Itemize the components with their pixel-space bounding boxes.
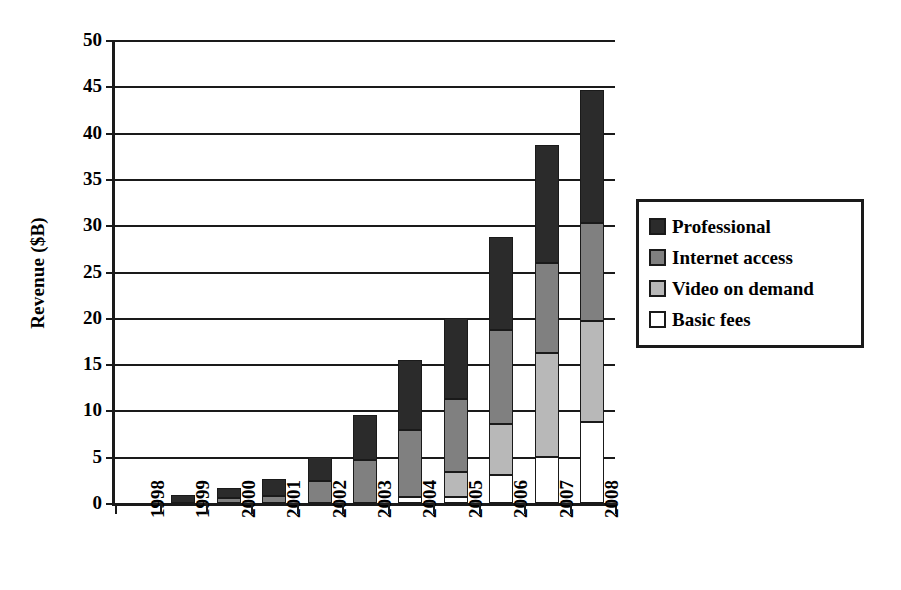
- bar-segment-professional: [308, 457, 332, 481]
- legend-item-video-on-demand[interactable]: Video on demand: [649, 273, 851, 304]
- legend-swatch-icon: [649, 280, 666, 297]
- y-tick-mark: [106, 179, 115, 181]
- legend-swatch-icon: [649, 218, 666, 235]
- legend: ProfessionalInternet accessVideo on dema…: [636, 199, 864, 348]
- bar-segment-video-on-demand: [580, 321, 604, 423]
- x-tick-mark: [524, 503, 526, 514]
- y-tick-label: 0: [93, 492, 103, 514]
- x-tick-label: 1998: [147, 480, 169, 518]
- x-tick-mark: [388, 503, 390, 514]
- y-tick-mark: [106, 225, 115, 227]
- y-tick-mark: [106, 364, 115, 366]
- legend-swatch-icon: [649, 311, 666, 328]
- x-tick-label: 2006: [510, 480, 532, 518]
- y-tick-label: 45: [83, 75, 102, 97]
- y-tick-label: 25: [83, 261, 102, 283]
- legend-item-label: Basic fees: [672, 310, 751, 329]
- legend-item-basic-fees[interactable]: Basic fees: [649, 304, 851, 335]
- x-tick-mark: [433, 503, 435, 514]
- plot-area: 05101520253035404550 1998199920002001200…: [112, 40, 615, 506]
- bar-segment-internet-access: [580, 223, 604, 320]
- y-tick-mark: [106, 410, 115, 412]
- y-tick-label: 40: [83, 122, 102, 144]
- y-tick-mark: [106, 318, 115, 320]
- legend-item-label: Professional: [672, 217, 771, 236]
- x-tick-label: 2002: [329, 480, 351, 518]
- x-tick-label: 2003: [374, 480, 396, 518]
- y-tick-label: 35: [83, 168, 102, 190]
- legend-item-internet-access[interactable]: Internet access: [649, 242, 851, 273]
- y-tick-mark: [106, 272, 115, 274]
- legend-item-label: Video on demand: [672, 279, 814, 298]
- bar-2006: [489, 237, 513, 503]
- x-tick-mark: [251, 503, 253, 514]
- bar-segment-video-on-demand: [489, 424, 513, 475]
- y-tick-label: 20: [83, 307, 102, 329]
- legend-item-label: Internet access: [672, 248, 793, 267]
- bar-segment-internet-access: [308, 481, 332, 503]
- bar-segment-professional: [535, 145, 559, 264]
- y-tick-mark: [106, 40, 115, 42]
- stacked-bar-chart: Revenue ($B) 05101520253035404550 199819…: [0, 0, 901, 590]
- bar-segment-professional: [398, 360, 422, 429]
- bar-2002: [308, 457, 332, 503]
- x-tick-mark: [342, 503, 344, 514]
- bar-segment-internet-access: [444, 399, 468, 472]
- y-tick-label: 15: [83, 353, 102, 375]
- x-tick-mark: [570, 503, 572, 514]
- bar-segment-internet-access: [489, 330, 513, 424]
- x-tick-label: 2004: [419, 480, 441, 518]
- gridline: [115, 86, 615, 88]
- bar-segment-professional: [353, 415, 377, 460]
- x-tick-label: 2008: [601, 480, 623, 518]
- gridline: [115, 133, 615, 135]
- bar-segment-internet-access: [535, 263, 559, 353]
- y-tick-label: 10: [83, 399, 102, 421]
- legend-item-professional[interactable]: Professional: [649, 211, 851, 242]
- y-tick-label: 30: [83, 214, 102, 236]
- x-tick-mark: [206, 503, 208, 514]
- bar-segment-video-on-demand: [535, 353, 559, 457]
- x-tick-mark: [297, 503, 299, 514]
- x-tick-label: 1999: [192, 480, 214, 518]
- x-tick-mark: [479, 503, 481, 514]
- x-tick-label: 2000: [238, 480, 260, 518]
- y-tick-mark: [106, 133, 115, 135]
- x-tick-mark: [115, 503, 117, 514]
- gridline: [115, 40, 615, 42]
- legend-swatch-icon: [649, 249, 666, 266]
- x-tick-mark: [160, 503, 162, 514]
- y-tick-mark: [106, 457, 115, 459]
- y-axis-title: Revenue ($B): [27, 173, 49, 373]
- bar-segment-professional: [489, 237, 513, 330]
- x-tick-label: 2001: [283, 480, 305, 518]
- y-tick-label: 50: [83, 29, 102, 51]
- bar-2005: [444, 318, 468, 503]
- y-tick-mark: [106, 86, 115, 88]
- bar-segment-professional: [444, 318, 468, 399]
- bar-2008: [580, 90, 604, 503]
- x-tick-label: 2005: [465, 480, 487, 518]
- y-tick-mark: [106, 503, 115, 505]
- x-tick-label: 2007: [556, 480, 578, 518]
- y-tick-label: 5: [93, 446, 103, 468]
- bar-2007: [535, 145, 559, 503]
- bar-segment-professional: [580, 90, 604, 223]
